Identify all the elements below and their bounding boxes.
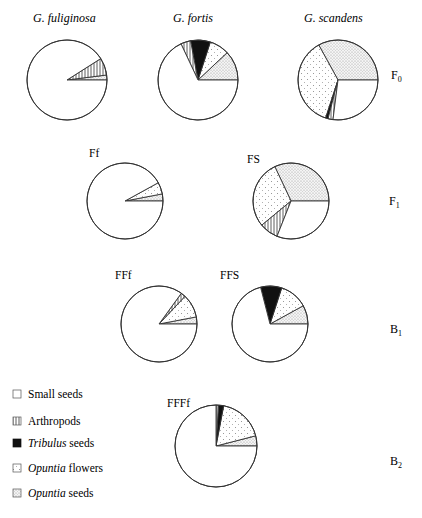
row-label-b1: B1 [390, 322, 402, 338]
pie-label-fff: FFf [115, 269, 132, 281]
legend-label: Tribulus seeds [28, 437, 95, 449]
pie-slice-small-seeds [333, 80, 378, 120]
legend-label: Small seeds [28, 388, 83, 400]
legend-item-opuntia-seeds: Opuntia seeds [13, 487, 94, 500]
legend-label: Opuntia flowers [28, 462, 104, 475]
legend-item-small-seeds: Small seeds [13, 388, 83, 400]
pie-ffs [232, 286, 308, 362]
pie-title-g-scandens: G. scandens [304, 11, 363, 25]
legend-item-arthropods: Arthropods [13, 415, 81, 428]
legend-label: Arthropods [28, 415, 81, 428]
pie-fff [121, 286, 197, 362]
pie-ffff [175, 405, 257, 487]
row-label-f0: F0 [391, 68, 402, 84]
legend-label: Opuntia seeds [28, 487, 94, 500]
pie-ff [87, 163, 163, 239]
pie-label-ff: Ff [89, 147, 99, 159]
pie-label-ffff: FFFf [167, 397, 190, 409]
legend-item-opuntia-flowers: Opuntia flowers [13, 462, 104, 475]
pie-title-g-fuliginosa: G. fuliginosa [33, 11, 96, 25]
pie-g-scandens [298, 40, 378, 120]
row-label-b2: B2 [390, 454, 402, 470]
pie-label-ffs: FFS [220, 269, 239, 281]
legend-item-tribulus-seeds: Tribulus seeds [13, 437, 95, 449]
pie-fs [253, 163, 329, 239]
legend-swatch-white [13, 390, 21, 398]
pie-chart-figure: G. fuliginosa G. fortis G. scandens Ff F… [0, 0, 422, 518]
legend-swatch-black [13, 439, 21, 447]
row-label-f1: F1 [389, 194, 400, 210]
legend-swatch-sparse-dots [13, 464, 21, 472]
legend-swatch-hatched [13, 417, 21, 425]
pie-title-g-fortis: G. fortis [173, 11, 213, 25]
legend-swatch-dense-dots [13, 489, 21, 497]
pie-label-fs: FS [247, 153, 260, 165]
pie-g-fortis [158, 40, 238, 120]
legend: Small seeds Arthropods Tribulus seeds Op… [13, 388, 104, 500]
pie-g-fuliginosa [27, 40, 107, 120]
